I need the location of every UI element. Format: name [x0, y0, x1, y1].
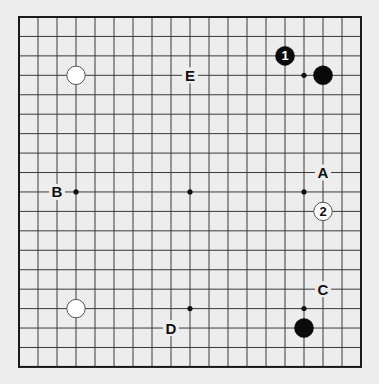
point-label-a[interactable]: A — [315, 164, 331, 181]
point-label-b[interactable]: B — [49, 183, 65, 200]
stone-move-1[interactable]: 1 — [276, 46, 295, 65]
black-stone-icon — [295, 319, 314, 338]
star-point — [301, 306, 306, 311]
star-point — [73, 189, 78, 194]
go-board[interactable]: 12 ABCDE — [0, 0, 379, 384]
move-number: 2 — [319, 204, 326, 219]
white-stone-icon — [67, 66, 85, 84]
black-stone-icon — [314, 66, 333, 85]
point-label-d[interactable]: D — [163, 320, 179, 337]
move-number: 1 — [281, 48, 288, 63]
label-text: D — [166, 320, 177, 337]
label-text: C — [318, 281, 329, 298]
label-text: B — [52, 183, 63, 200]
stone-move-2[interactable]: 2 — [314, 202, 332, 220]
black-stone[interactable] — [314, 66, 333, 85]
label-text: A — [318, 164, 329, 181]
point-label-e[interactable]: E — [182, 67, 198, 84]
go-board-svg[interactable]: 12 ABCDE — [0, 0, 379, 384]
white-stone[interactable] — [67, 66, 85, 84]
star-point — [301, 73, 306, 78]
label-text: E — [185, 67, 195, 84]
star-point — [187, 306, 192, 311]
white-stone[interactable] — [67, 299, 85, 317]
star-point — [187, 189, 192, 194]
star-point — [301, 189, 306, 194]
point-label-c[interactable]: C — [315, 281, 331, 298]
white-stone-icon — [67, 299, 85, 317]
black-stone[interactable] — [295, 319, 314, 338]
